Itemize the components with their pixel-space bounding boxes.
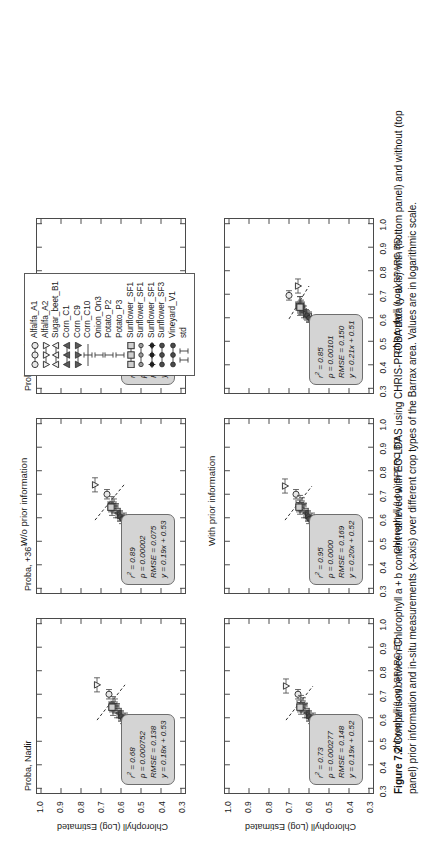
x-tick-label: 0.7 [378,690,388,702]
legend-marker-errbar-icon [104,342,114,368]
legend-marker-square-open-icon [126,342,136,368]
legend-marker-tri-up-open-icon [51,342,61,368]
y-tick-label: 0.4 [345,801,355,813]
stat-r2-p55-bottom: r2 = 0.85 [314,321,326,378]
legend-marker-circle-fill-icon [157,342,167,368]
x-tick-label: 0.5 [378,338,388,350]
x-tick-label: 0.9 [378,243,388,255]
x-tick-label: 0.6 [378,714,388,726]
legend-item[interactable]: Corn_C9 [72,281,83,368]
stats-box-nadir-top: r2 = 0.68p = 0.000752RMSE = 0.138y = 0.1… [121,714,175,785]
legend-item-label: Onion_On3 [95,296,103,338]
legend-item-label: Corn_C1 [63,305,71,338]
legend-item[interactable]: Alfalfa_A2 [41,281,52,368]
figure-page: W/o prior information With prior informa… [0,0,428,846]
stats-box-p36-bottom: r2 = 0.95p = 0.0000RMSE = 0.169y = 0.20x… [309,514,363,585]
x-tick-label: 0.9 [378,643,388,655]
legend-marker-tri-up-fill-icon [62,342,72,368]
legend-item-label: Potato_P3 [116,300,124,338]
y-axis-title-top: Chlorophyll (Log) Estimated [57,822,168,832]
stat-p-p36-top: p = 0.00002 [138,521,149,578]
stat-p-p55-bottom: p = 0.00101 [326,321,337,378]
legend-item-label: Corn_C10 [84,301,92,338]
x-tick-label: 1.0 [378,619,388,631]
legend-item[interactable]: std [178,281,189,368]
legend-marker-circle-open-icon [30,342,40,368]
legend-item[interactable]: Sunflower_SF1 [125,281,136,368]
legend-marker-circle-small-icon [136,342,146,368]
x-tick-label: 0.6 [378,314,388,326]
y-tick-label: 0.3 [177,801,187,813]
y-tick-label: 1.0 [35,801,45,813]
x-tick-label: 0.5 [378,738,388,750]
row-header-without-prior: W/o prior information [18,458,29,546]
plot-panel-p36-bottom: r2 = 0.95p = 0.0000RMSE = 0.169y = 0.20x… [224,418,374,594]
figure-body: W/o prior information With prior informa… [0,0,428,846]
y-tick-label: 0.4 [157,801,167,813]
legend-item[interactable]: Sugar_beet_B1 [51,281,62,368]
y-tick-label: 0.9 [243,801,253,813]
legend-marker-tri-down-open-icon [41,342,51,368]
rotated-figure-wrapper: W/o prior information With prior informa… [0,0,428,846]
y-tick-label: 0.3 [365,801,375,813]
stat-r2-nadir-bottom: r2 = 0.73 [314,721,326,778]
x-tick-label: 0.6 [378,514,388,526]
legend-item[interactable]: Potato_P3 [115,281,126,368]
legend-item[interactable]: Sunflower_SF3 [157,281,168,368]
legend-item[interactable]: Potato_P2 [104,281,115,368]
stat-p-p36-bottom: p = 0.0000 [326,521,337,578]
legend-item-label: Alfalfa_A1 [31,301,39,338]
legend-item-label: Vineyard_V1 [169,291,177,338]
figure-caption-text: Comparison between Chlorophyll a + b con… [393,111,418,795]
stat-eq-p36-bottom: y = 0.20x + 0.52 [347,521,358,578]
stat-rmse-nadir-bottom: RMSE = 0.148 [337,721,348,778]
legend-marker-star-fill-icon [147,342,157,368]
plot-panel-nadir-top: Proba, Nadir r2 = 0.68p = 0.000752RMSE =… [36,618,186,794]
legend-item-label: Sunflower_SF1 [127,282,135,338]
legend-item-label: Corn_C9 [74,305,82,338]
stat-r2-p36-top: r2 = 0.89 [126,521,138,578]
y-tick-label: 0.7 [284,801,294,813]
x-tick-label: 0.8 [378,467,388,479]
legend-item[interactable]: Vineyard_V1 [168,281,179,368]
y-tick-label: 0.8 [264,801,274,813]
legend-marker-errbar-icon [115,342,125,368]
legend-item[interactable]: Corn_C10 [83,281,94,368]
stat-eq-nadir-top: y = 0.18x + 0.53 [159,721,170,778]
x-tick-label: 0.8 [378,267,388,279]
x-tick-label: 0.7 [378,290,388,302]
legend-item[interactable]: Alfalfa_A1 [30,281,41,368]
x-tick-label: 0.5 [378,538,388,550]
stat-rmse-p36-top: RMSE = 0.075 [149,521,160,578]
legend-item-label: Alfalfa_A2 [42,301,50,338]
panel-title-p36-top: Proba, +36° [23,543,33,591]
legend-marker-errbar-icon [94,342,104,368]
stat-eq-p55-bottom: y = 0.21x + 0.51 [347,321,358,378]
x-tick-label: 0.4 [378,362,388,374]
y-tick-label: 0.9 [55,801,65,813]
stats-box-p55-bottom: r2 = 0.85p = 0.00101RMSE = 0.150y = 0.21… [309,314,363,385]
x-tick-label: 0.4 [378,562,388,574]
figure-caption: Figure 7.2 Comparison between Chlorophyl… [392,94,419,794]
stat-r2-nadir-top: r2 = 0.68 [126,721,138,778]
y-tick-label: 0.6 [116,801,126,813]
legend-item-label: Sunflower_SF1 [148,282,156,338]
x-tick-label: 0.3 [378,785,388,797]
x-tick-label: 0.3 [378,585,388,597]
legend-item[interactable]: Sunflower_SF1 [147,281,158,368]
legend-item-label: Sunflower_SF3 [158,282,166,338]
legend: Alfalfa_A1Alfalfa_A2Sugar_beet_B1Corn_C1… [24,273,195,376]
legend-item[interactable]: Corn_C1 [62,281,73,368]
x-tick-label: 0.8 [378,667,388,679]
legend-item-label: std [180,327,188,338]
legend-item[interactable]: Sunflower_SF1 [136,281,147,368]
stat-eq-nadir-bottom: y = 0.19x + 0.52 [347,721,358,778]
legend-item[interactable]: Onion_On3 [94,281,105,368]
legend-item-label: Sunflower_SF1 [137,282,145,338]
stat-rmse-p55-bottom: RMSE = 0.150 [337,321,348,378]
x-tick-label: 1.0 [378,419,388,431]
stats-box-nadir-bottom: r2 = 0.73p = 0.000277RMSE = 0.148y = 0.1… [309,714,363,785]
legend-marker-errbar-icon [83,342,93,368]
y-tick-label: 0.5 [136,801,146,813]
legend-marker-circle-fill-icon [168,342,178,368]
